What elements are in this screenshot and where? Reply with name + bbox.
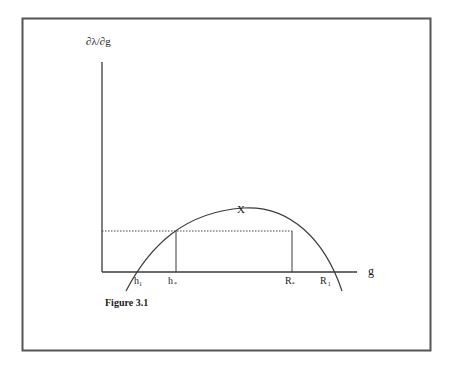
figure-frame [23,19,431,351]
figure-caption: Figure 3.1 [105,297,148,308]
tick-r1: R1 [320,275,331,287]
y-axis-label: ∂λ/∂g [86,35,111,47]
tick-r-star: R* [285,275,295,287]
x-axis-label: g [368,264,374,278]
peak-label: X [237,203,245,215]
figure-canvas: ∂λ/∂g X g h1 h* R* R1 Figure 3.1 [0,0,453,378]
tick-h-star: h* [168,275,177,287]
tick-h1: h1 [134,275,142,287]
marginal-curve [126,208,342,291]
